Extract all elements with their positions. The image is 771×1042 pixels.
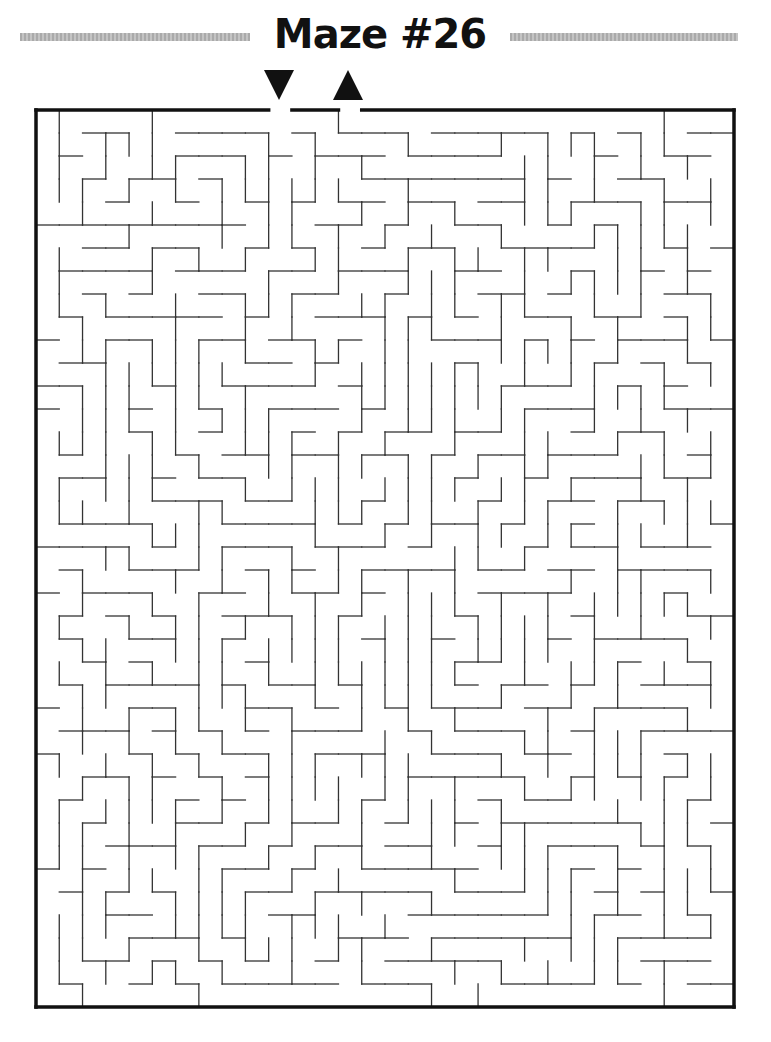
maze-board[interactable]: [0, 0, 771, 1042]
